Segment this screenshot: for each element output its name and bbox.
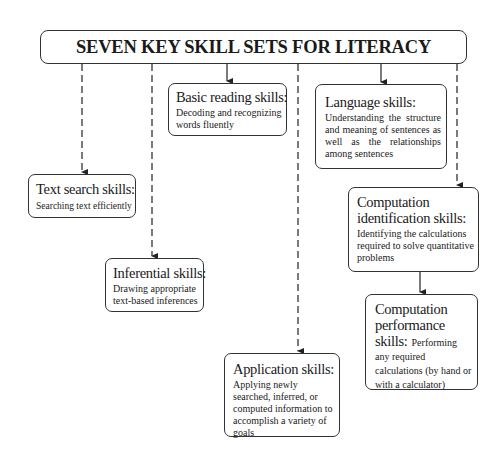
- skill-description: Understanding the structure and meaning …: [325, 112, 441, 160]
- text-search-skills-box: Text search skills: Searching text effic…: [28, 174, 136, 218]
- skill-title: Text search skills:: [36, 181, 130, 197]
- skill-title: Application skills:: [233, 361, 335, 377]
- diagram-title: SEVEN KEY SKILL SETS FOR LITERACY: [76, 37, 431, 58]
- skill-description: Applying newly searched, inferred, or co…: [233, 379, 335, 439]
- skill-description: Drawing appropriate text-based inference…: [113, 283, 199, 307]
- skill-title: Computation identification skills:: [357, 194, 469, 226]
- skill-title: Inferential skills:: [113, 265, 199, 281]
- skill-title-with-description: skills: Performing any required calculat…: [375, 333, 473, 391]
- skill-description: Decoding and recognizing words fluently: [176, 107, 282, 131]
- computation-performance-skills-box: Computation performance skills: Performi…: [365, 294, 478, 390]
- skill-title: performance: [375, 317, 473, 333]
- diagram-title-box: SEVEN KEY SKILL SETS FOR LITERACY: [40, 30, 467, 64]
- inferential-skills-box: Inferential skills: Drawing appropriate …: [105, 258, 204, 312]
- application-skills-box: Application skills: Applying newly searc…: [224, 353, 340, 437]
- skill-title: Language skills:: [325, 94, 441, 110]
- computation-identification-skills-box: Computation identification skills: Ident…: [348, 187, 479, 272]
- skill-description: Identifying the calculations required to…: [357, 228, 474, 264]
- skill-title: Basic reading skills:: [176, 89, 282, 105]
- language-skills-box: Language skills: Understanding the struc…: [315, 84, 447, 169]
- basic-reading-skills-box: Basic reading skills: Decoding and recog…: [168, 83, 287, 136]
- skill-title: skills:: [375, 333, 408, 349]
- skill-title: Computation: [375, 301, 473, 317]
- skill-description: Searching text efficiently: [36, 200, 130, 212]
